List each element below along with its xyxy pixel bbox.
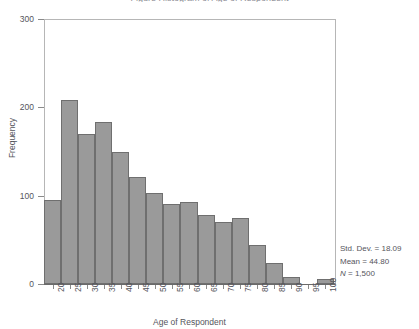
x-axis-label-80: 80 (261, 283, 270, 292)
x-axis-label-30: 30 (91, 283, 100, 292)
bar-age-30 (78, 134, 95, 284)
x-axis-tick-85 (274, 285, 275, 289)
x-axis-tick-25 (70, 285, 71, 289)
x-axis-tick-65 (206, 285, 207, 289)
x-axis-label-75: 75 (244, 283, 253, 292)
bar-age-20 (44, 200, 61, 284)
y-axis-label-0: 0 (0, 280, 34, 289)
bar-age-35 (95, 122, 112, 284)
x-axis-tick-95 (308, 285, 309, 289)
stat-std-dev: Std. Dev. = 18.09 (340, 243, 418, 256)
x-axis-label-35: 35 (108, 283, 117, 292)
x-axis-label-100: 100 (329, 278, 338, 292)
stat-n-value: = 1,500 (346, 269, 375, 278)
y-axis-label-200: 200 (0, 103, 34, 112)
bar-age-75 (232, 218, 249, 284)
histogram-figure: Figure Histogram of Age of Respondent 30… (0, 0, 419, 329)
bar-age-50 (146, 193, 163, 284)
x-axis-tick-60 (189, 285, 190, 289)
x-axis-label-20: 20 (57, 283, 66, 292)
bars-container (44, 19, 334, 284)
x-axis-tick-30 (87, 285, 88, 289)
x-axis-label-65: 65 (210, 283, 219, 292)
x-axis-label-70: 70 (227, 283, 236, 292)
x-axis-tick-35 (104, 285, 105, 289)
x-axis-tick-100 (325, 285, 326, 289)
x-axis-tick-50 (155, 285, 156, 289)
bar-age-55 (163, 204, 180, 284)
bar-age-65 (198, 215, 215, 284)
x-axis-tick-40 (121, 285, 122, 289)
y-axis-label-300: 300 (0, 15, 34, 24)
y-axis-title: Frequency (7, 108, 17, 168)
x-axis-label-40: 40 (125, 283, 134, 292)
x-axis-title: Age of Respondent (44, 317, 335, 327)
bar-age-85 (266, 263, 283, 284)
x-axis-label-25: 25 (74, 283, 83, 292)
chart-title-cutoff: Figure Histogram of Age of Respondent (0, 0, 419, 2)
x-axis-label-90: 90 (295, 283, 304, 292)
stat-mean: Mean = 44.80 (340, 256, 418, 269)
bar-age-60 (180, 202, 197, 284)
stat-n: N = 1,500 (340, 268, 418, 281)
bar-age-40 (112, 152, 129, 285)
x-axis-tick-70 (223, 285, 224, 289)
x-axis-tick-75 (240, 285, 241, 289)
x-axis-label-60: 60 (193, 283, 202, 292)
bar-age-70 (215, 222, 232, 284)
bar-age-80 (249, 245, 266, 284)
x-axis-label-85: 85 (278, 283, 287, 292)
x-axis-tick-20 (53, 285, 54, 289)
x-axis-label-55: 55 (176, 283, 185, 292)
y-axis-label-100: 100 (0, 192, 34, 201)
x-axis-tick-80 (257, 285, 258, 289)
x-axis-tick-90 (291, 285, 292, 289)
x-axis-tick-45 (138, 285, 139, 289)
x-axis-tick-55 (172, 285, 173, 289)
x-axis-label-95: 95 (312, 283, 321, 292)
statistics-annotation: Std. Dev. = 18.09 Mean = 44.80 N = 1,500 (340, 243, 418, 281)
bar-age-45 (129, 177, 146, 284)
bar-age-25 (61, 100, 78, 284)
x-axis-label-50: 50 (159, 283, 168, 292)
x-axis-label-45: 45 (142, 283, 151, 292)
y-axis-tick-0 (38, 284, 44, 285)
